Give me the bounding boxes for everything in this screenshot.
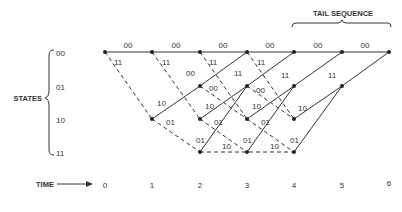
svg-text:00: 00: [219, 41, 228, 50]
time-tick-3: 3: [245, 181, 250, 190]
svg-text:11: 11: [162, 58, 171, 67]
states-brace: [45, 50, 54, 155]
svg-text:00: 00: [209, 84, 218, 93]
time-tick-5: 5: [340, 181, 345, 190]
svg-text:00: 00: [186, 69, 195, 78]
svg-text:10: 10: [252, 102, 261, 111]
svg-text:10: 10: [270, 142, 279, 151]
svg-text:00: 00: [124, 41, 133, 50]
time-arrow: [57, 181, 93, 187]
svg-text:11: 11: [209, 58, 218, 67]
state-label-10: 10: [56, 116, 65, 125]
svg-text:01: 01: [166, 118, 175, 127]
svg-text:00: 00: [361, 41, 370, 50]
states-label: STATES: [14, 94, 42, 103]
svg-text:00: 00: [266, 41, 275, 50]
time-tick-1: 1: [150, 181, 155, 190]
time-tick-6: 6: [387, 179, 392, 188]
svg-text:00: 00: [314, 41, 323, 50]
svg-text:11: 11: [257, 58, 266, 67]
svg-text:00: 00: [172, 41, 181, 50]
svg-text:01: 01: [243, 136, 252, 145]
time-tick-4: 4: [292, 181, 297, 190]
svg-text:01: 01: [290, 136, 299, 145]
svg-text:11: 11: [114, 58, 123, 67]
svg-text:00: 00: [256, 86, 265, 95]
time-tick-0: 0: [103, 181, 108, 190]
svg-text:01: 01: [196, 136, 205, 145]
time-label: TIME: [36, 180, 54, 189]
svg-text:01: 01: [261, 118, 270, 127]
svg-text:01: 01: [214, 118, 223, 127]
svg-text:11: 11: [281, 71, 290, 80]
tail-sequence-brace: [292, 20, 391, 27]
trellis-diagram: TAIL SEQUENCE STATES 00 01 10 11: [0, 0, 402, 212]
svg-text:10: 10: [222, 142, 231, 151]
time-tick-2: 2: [198, 181, 203, 190]
svg-text:10: 10: [205, 102, 214, 111]
state-label-11: 11: [56, 149, 65, 158]
state-label-01: 01: [56, 83, 65, 92]
svg-text:11: 11: [328, 71, 337, 80]
svg-text:11: 11: [234, 69, 243, 78]
state-label-00: 00: [56, 49, 65, 58]
tail-sequence-label: TAIL SEQUENCE: [313, 9, 373, 18]
svg-text:10: 10: [298, 104, 307, 113]
svg-text:10: 10: [157, 99, 166, 108]
edge-labels: 00 00 00 00 00 00 11 11 11 11 00 11 11 1…: [114, 41, 370, 151]
